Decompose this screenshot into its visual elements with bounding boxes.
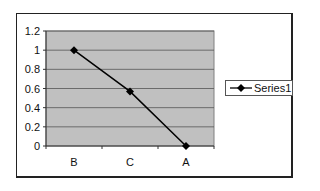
legend-label: Series1 [254,82,291,94]
y-tick-label: 0.2 [25,121,40,133]
y-tick-label: 1 [34,44,40,56]
y-tick-label: 1.2 [25,25,40,37]
x-tick-label: B [70,156,77,168]
y-tick-label: 0 [34,140,40,152]
y-tick-label: 0.4 [25,102,40,114]
legend-marker-icon [228,81,256,95]
x-tick-label: C [126,156,134,168]
x-tick-label: A [182,156,190,168]
y-tick-label: 0.8 [25,63,40,75]
legend: Series1 [225,80,293,96]
y-tick-label: 0.6 [25,83,40,95]
